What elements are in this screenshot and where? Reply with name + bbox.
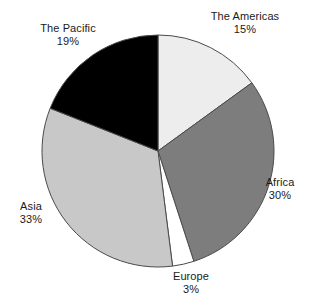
pie-slice-group: [42, 35, 274, 267]
pie-label-asia: Asia 33%: [2, 200, 60, 227]
pie-label-the-pacific: The Pacific 19%: [16, 22, 120, 49]
pie-label-name: Europe: [158, 270, 224, 283]
pie-label-value: 19%: [16, 35, 120, 48]
pie-label-name: Asia: [2, 200, 60, 213]
pie-label-name: The Americas: [190, 10, 300, 23]
pie-label-value: 15%: [190, 23, 300, 36]
pie-label-europe: Europe 3%: [158, 270, 224, 297]
pie-chart: The Americas 15% The Pacific 19% Africa …: [0, 0, 316, 306]
pie-label-name: Africa: [250, 176, 310, 189]
pie-label-name: The Pacific: [16, 22, 120, 35]
pie-label-value: 33%: [2, 213, 60, 226]
pie-label-value: 3%: [158, 283, 224, 296]
pie-label-africa: Africa 30%: [250, 176, 310, 203]
pie-label-value: 30%: [250, 189, 310, 202]
pie-label-the-americas: The Americas 15%: [190, 10, 300, 37]
